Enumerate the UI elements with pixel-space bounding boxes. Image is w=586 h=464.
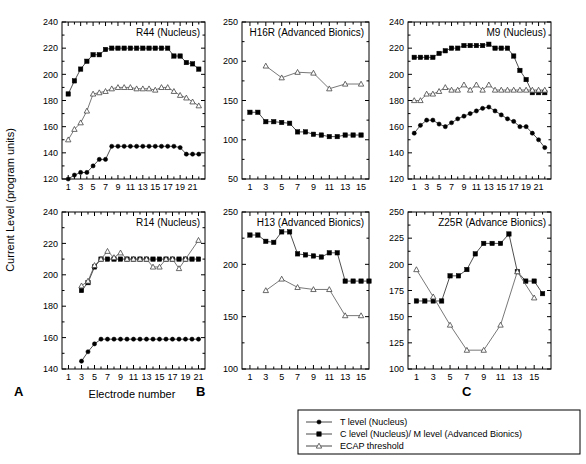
marker-filled-square: [482, 241, 486, 245]
marker-open-triangle: [474, 82, 479, 87]
marker-filled-circle: [178, 146, 182, 150]
marker-filled-square: [110, 46, 114, 50]
marker-filled-circle: [103, 157, 107, 161]
marker-filled-square: [295, 252, 299, 256]
y-tick-label-r44: 220: [43, 43, 58, 53]
panel-r44: 12014016018020022024013579111315171921R4…: [43, 17, 205, 192]
marker-filled-circle: [543, 146, 547, 150]
series-line: [414, 44, 545, 92]
marker-filled-square: [172, 54, 176, 58]
marker-filled-square: [159, 46, 163, 50]
marker-filled-square: [540, 291, 544, 295]
x-tick-label-h16r: 5: [279, 182, 284, 192]
marker-filled-circle: [190, 337, 194, 341]
x-tick-label-h16r: 1: [247, 182, 252, 192]
marker-filled-circle: [518, 125, 522, 129]
marker-filled-circle: [153, 144, 157, 148]
series-z25r-filled-square: [414, 232, 545, 303]
x-tick-label-r44: 19: [175, 182, 185, 192]
panel-letter-b: B: [196, 384, 205, 399]
marker-filled-square: [327, 251, 331, 255]
marker-filled-square: [279, 230, 283, 234]
x-tick-label-m9: 1: [412, 182, 417, 192]
marker-filled-circle: [128, 144, 132, 148]
panel-r14: 14016018020022024013579111315171921R14 (…: [43, 207, 205, 382]
marker-filled-square: [311, 254, 315, 258]
marker-filled-circle: [99, 337, 103, 341]
marker-filled-square: [505, 46, 509, 50]
plot-frame-r44: [62, 22, 205, 179]
marker-filled-circle: [536, 138, 540, 142]
marker-filled-square: [335, 251, 339, 255]
marker-open-triangle: [531, 295, 536, 300]
marker-filled-square: [272, 240, 276, 244]
y-tick-label-z25r: 200: [389, 260, 404, 270]
marker-filled-square: [443, 49, 447, 53]
y-tick-label-h13: 150: [223, 312, 238, 322]
marker-filled-square: [97, 53, 101, 57]
x-tick-label-h13: 3: [263, 372, 268, 382]
x-tick-label-r14: 21: [193, 372, 203, 382]
marker-filled-circle: [197, 152, 201, 156]
marker-filled-square: [248, 110, 252, 114]
marker-filled-square: [105, 257, 109, 261]
x-tick-label-r44: 5: [91, 182, 96, 192]
marker-open-triangle: [447, 322, 452, 327]
marker-filled-square: [151, 257, 155, 261]
x-tick-label-h16r: 7: [295, 182, 300, 192]
x-tick-label-r14: 11: [129, 372, 138, 382]
marker-filled-circle: [79, 359, 83, 363]
marker-filled-square: [311, 132, 315, 136]
marker-open-triangle: [118, 250, 123, 255]
marker-filled-square: [178, 54, 182, 58]
marker-filled-circle: [468, 111, 472, 115]
marker-filled-square: [248, 233, 252, 237]
marker-open-triangle: [103, 89, 108, 94]
marker-filled-square: [327, 134, 331, 138]
x-tick-label-h13: 13: [340, 372, 350, 382]
series-h13-open-triangle: [263, 276, 364, 318]
marker-filled-square: [85, 59, 89, 63]
x-tick-label-m9: 9: [461, 182, 466, 192]
marker-filled-circle: [183, 337, 187, 341]
x-tick-label-r44: 7: [103, 182, 108, 192]
marker-filled-circle: [79, 170, 83, 174]
marker-filled-circle: [172, 144, 176, 148]
x-tick-label-r44: 15: [150, 182, 160, 192]
marker-open-triangle: [498, 322, 503, 327]
marker-open-triangle: [431, 294, 436, 299]
marker-filled-square: [351, 279, 355, 283]
x-tick-label-m9: 11: [472, 182, 481, 192]
marker-open-triangle: [263, 288, 268, 293]
marker-filled-circle: [449, 121, 453, 125]
marker-filled-square: [468, 43, 472, 47]
panel-letter-c: C: [462, 384, 472, 399]
figure-panel-grid: 12014016018020022024013579111315171921R4…: [0, 0, 586, 464]
marker-filled-circle: [166, 144, 170, 148]
panel-h16r: 5010015020025013579111315H16R (Advanced …: [223, 17, 369, 192]
marker-filled-circle: [418, 123, 422, 127]
marker-filled-square: [141, 46, 145, 50]
marker-filled-square: [272, 119, 276, 123]
x-tick-label-m9: 15: [496, 182, 506, 192]
marker-filled-square: [490, 241, 494, 245]
marker-filled-square: [487, 42, 491, 46]
marker-filled-circle: [317, 420, 321, 424]
x-tick-label-r14: 3: [79, 372, 84, 382]
x-tick-label-r44: 1: [66, 182, 71, 192]
marker-filled-square: [66, 92, 70, 96]
series-m9-filled-circle: [412, 105, 547, 150]
marker-filled-square: [414, 299, 418, 303]
y-tick-label-r14: 180: [43, 301, 58, 311]
marker-filled-circle: [505, 117, 509, 121]
x-tick-label-h13: 5: [279, 372, 284, 382]
y-tick-label-m9: 140: [389, 148, 404, 158]
x-tick-label-r14: 7: [105, 372, 110, 382]
panel-z25r: 10012515017520022525013579111315Z25R (Ad…: [389, 207, 551, 382]
marker-open-triangle: [190, 99, 195, 104]
y-tick-label-r14: 140: [43, 364, 58, 374]
panel-title-h16r: H16R (Advanced Bionics): [250, 27, 365, 38]
marker-filled-circle: [125, 337, 129, 341]
y-tick-label-m9: 120: [389, 174, 404, 184]
y-tick-label-z25r: 150: [389, 312, 404, 322]
